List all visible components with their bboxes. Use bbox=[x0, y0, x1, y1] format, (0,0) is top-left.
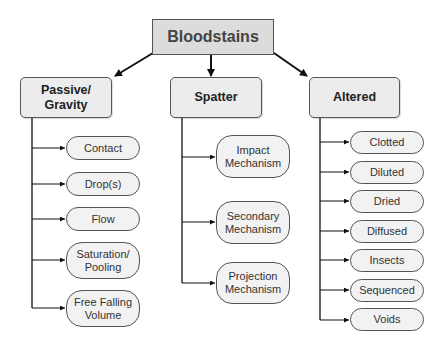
category-altered: Altered bbox=[309, 77, 400, 118]
leaf-label: Drop(s) bbox=[85, 178, 122, 191]
category-spatter: Spatter bbox=[170, 77, 262, 118]
leaf-label: Voids bbox=[374, 313, 401, 326]
leaf-label: Dried bbox=[374, 195, 400, 208]
leaf-label: Insects bbox=[370, 254, 405, 267]
leaf-label-line2: Mechanism bbox=[225, 157, 281, 170]
leaf-label-line2: Mechanism bbox=[225, 283, 281, 296]
leaf-diffused: Diffused bbox=[350, 220, 424, 243]
leaf-sequenced: Sequenced bbox=[350, 279, 424, 302]
category-label-line1: Passive/ bbox=[41, 83, 91, 98]
leaf-flow: Flow bbox=[66, 207, 140, 231]
category-passive-gravity: Passive/ Gravity bbox=[20, 77, 112, 118]
root-label: Bloodstains bbox=[167, 28, 259, 46]
leaf-label-line2: Mechanism bbox=[225, 223, 281, 236]
leaf-secondary-mechanism: Secondary Mechanism bbox=[216, 201, 290, 244]
leaf-label-line2: Volume bbox=[85, 309, 122, 322]
leaf-label-line1: Free Falling bbox=[74, 296, 132, 309]
leaf-contact: Contact bbox=[66, 136, 140, 160]
root-node-bloodstains: Bloodstains bbox=[152, 19, 274, 55]
leaf-label: Diffused bbox=[367, 225, 407, 238]
leaf-clotted: Clotted bbox=[350, 131, 424, 154]
leaf-insects: Insects bbox=[350, 249, 424, 272]
leaf-projection-mechanism: Projection Mechanism bbox=[216, 262, 290, 304]
leaf-impact-mechanism: Impact Mechanism bbox=[216, 135, 290, 178]
leaf-label: Sequenced bbox=[359, 284, 415, 297]
leaf-label: Flow bbox=[91, 213, 114, 226]
category-label-line2: Gravity bbox=[44, 98, 87, 113]
leaf-label: Contact bbox=[84, 142, 122, 155]
leaf-label: Diluted bbox=[370, 166, 404, 179]
leaf-label-line1: Projection bbox=[229, 270, 278, 283]
arrow-root-to-altered bbox=[274, 53, 307, 76]
leaf-label: Clotted bbox=[370, 136, 405, 149]
leaf-label-line1: Secondary bbox=[227, 210, 280, 223]
leaf-label-line2: Pooling bbox=[85, 261, 122, 274]
leaf-drops: Drop(s) bbox=[66, 172, 140, 196]
leaf-free-falling-volume: Free Falling Volume bbox=[66, 290, 140, 327]
leaf-label-line1: Saturation/ bbox=[76, 248, 129, 261]
category-label: Spatter bbox=[194, 90, 237, 105]
leaf-label-line1: Impact bbox=[236, 144, 269, 157]
category-label: Altered bbox=[333, 90, 376, 105]
leaf-saturation-pooling: Saturation/ Pooling bbox=[66, 242, 140, 279]
leaf-voids: Voids bbox=[350, 308, 424, 331]
arrow-root-to-passive bbox=[115, 53, 153, 76]
leaf-diluted: Diluted bbox=[350, 161, 424, 184]
leaf-dried: Dried bbox=[350, 190, 424, 213]
